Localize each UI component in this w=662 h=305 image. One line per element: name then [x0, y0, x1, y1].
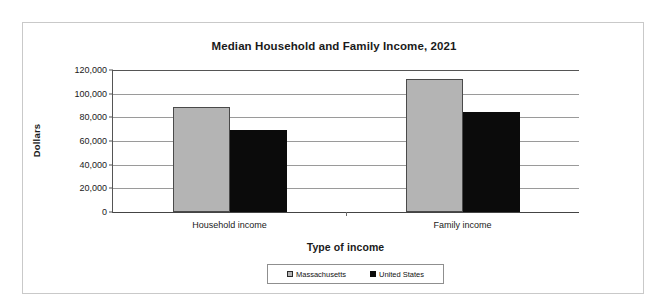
plot-area: 020,00040,00060,00080,000100,000120,000H… [112, 70, 579, 213]
category-label: Family income [433, 220, 491, 230]
legend-label-united-states: United States [379, 270, 424, 279]
chart-frame: Median Household and Family Income, 2021… [22, 22, 644, 294]
chart-legend: Massachusetts United States [267, 264, 444, 284]
y-tick-mark [109, 70, 113, 71]
y-tick-label: 20,000 [79, 183, 107, 193]
x-axis-title: Type of income [112, 241, 579, 253]
chart-title: Median Household and Family Income, 2021 [23, 40, 645, 52]
bar-united-states-household-income [230, 130, 287, 212]
bar-united-states-family-income [463, 112, 520, 212]
y-tick-label: 40,000 [79, 160, 107, 170]
y-tick-mark [109, 117, 113, 118]
legend-label-massachusetts: Massachusetts [296, 270, 346, 279]
x-tick-mark [346, 212, 347, 216]
legend-entry-massachusetts: Massachusetts [287, 270, 346, 279]
y-tick-label: 60,000 [79, 136, 107, 146]
y-tick-label: 80,000 [79, 112, 107, 122]
legend-entry-united-states: United States [370, 270, 424, 279]
y-tick-label: 120,000 [74, 65, 107, 75]
gridline [113, 94, 579, 95]
legend-swatch-icon-united-states [370, 271, 376, 277]
legend-swatch-icon-massachusetts [287, 271, 293, 277]
y-tick-mark [109, 188, 113, 189]
y-tick-label: 0 [102, 207, 107, 217]
y-tick-mark [109, 141, 113, 142]
y-axis-title: Dollars [31, 111, 42, 171]
gridline [113, 70, 579, 71]
bar-massachusetts-household-income [173, 107, 230, 212]
scan-artifact [8, 1, 60, 10]
y-tick-label: 100,000 [74, 89, 107, 99]
y-tick-mark [109, 212, 113, 213]
category-label: Household income [192, 220, 267, 230]
y-tick-mark [109, 93, 113, 94]
y-tick-mark [109, 164, 113, 165]
bar-massachusetts-family-income [406, 79, 463, 212]
